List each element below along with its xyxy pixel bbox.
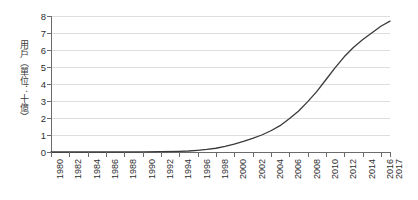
x-tick-label: 1986 <box>110 159 120 179</box>
x-tick-label: 2014 <box>367 159 377 179</box>
x-tick-label: 2008 <box>312 159 322 179</box>
x-tick-label: 1980 <box>55 159 65 179</box>
y-tick-mark <box>47 118 52 119</box>
y-tick-label: 1 <box>24 130 46 141</box>
y-tick-mark <box>47 50 52 51</box>
x-tick-mark <box>271 152 272 157</box>
x-tick-mark <box>344 152 345 157</box>
y-axis-tick-labels: 012345678 <box>22 16 46 152</box>
y-tick-label: 5 <box>24 62 46 73</box>
x-tick-mark <box>143 152 144 157</box>
x-tick-mark <box>124 152 125 157</box>
x-tick-mark <box>363 152 364 157</box>
x-tick-mark <box>69 152 70 157</box>
x-tick-mark <box>179 152 180 157</box>
x-tick-mark <box>234 152 235 157</box>
y-tick-label: 8 <box>24 11 46 22</box>
x-tick-mark <box>390 152 391 157</box>
x-tick-mark <box>326 152 327 157</box>
x-tick-mark <box>88 152 89 157</box>
x-tick-label: 1996 <box>202 159 212 179</box>
y-tick-label: 3 <box>24 96 46 107</box>
y-tick-mark <box>47 33 52 34</box>
x-tick-mark <box>381 152 382 157</box>
x-tick-label: 1994 <box>183 159 193 179</box>
x-tick-mark <box>308 152 309 157</box>
x-tick-label: 2004 <box>275 159 285 179</box>
x-tick-label: 2000 <box>238 159 248 179</box>
x-tick-label: 2006 <box>293 159 303 179</box>
y-tick-mark <box>47 84 52 85</box>
x-tick-label: 1998 <box>220 159 230 179</box>
line-series <box>51 16 391 153</box>
y-tick-mark <box>47 67 52 68</box>
y-tick-label: 4 <box>24 79 46 90</box>
x-tick-mark <box>198 152 199 157</box>
chart-container: 用戶（單位：十億） 012345678 19801982198419861988… <box>0 0 418 200</box>
x-tick-label: 2002 <box>257 159 267 179</box>
x-tick-mark <box>51 152 52 157</box>
y-tick-label: 2 <box>24 113 46 124</box>
x-tick-label: 1984 <box>92 159 102 179</box>
x-tick-mark <box>161 152 162 157</box>
x-tick-label: 1982 <box>73 159 83 179</box>
x-tick-label: 2010 <box>330 159 340 179</box>
y-tick-label: 6 <box>24 45 46 56</box>
x-tick-mark <box>106 152 107 157</box>
x-tick-mark <box>289 152 290 157</box>
x-tick-label: 2012 <box>348 159 358 179</box>
y-tick-mark <box>47 16 52 17</box>
x-tick-label: 1992 <box>165 159 175 179</box>
y-tick-label: 0 <box>24 147 46 158</box>
x-tick-mark <box>216 152 217 157</box>
x-tick-label: 1990 <box>147 159 157 179</box>
x-tick-label: 1988 <box>128 159 138 179</box>
x-tick-label: 2017 <box>394 159 404 179</box>
y-tick-mark <box>47 135 52 136</box>
y-tick-mark <box>47 101 52 102</box>
y-tick-label: 7 <box>24 28 46 39</box>
x-tick-mark <box>253 152 254 157</box>
